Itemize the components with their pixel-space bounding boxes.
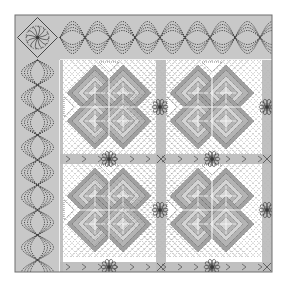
quilt-canvas [0, 0, 284, 282]
